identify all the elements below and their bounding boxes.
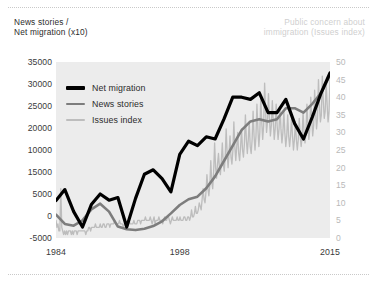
left-axis-tick: 15000	[2, 167, 52, 177]
left-axis-tick: -5000	[2, 233, 52, 243]
legend-item: News stories	[66, 96, 145, 112]
right-axis-tick: 50	[336, 57, 362, 67]
legend-item: Net migration	[66, 80, 145, 96]
right-axis-title: Public concern about immigration (Issues…	[264, 17, 365, 37]
legend-label: Issues index	[92, 115, 142, 125]
right-axis-tick: 5	[336, 215, 362, 225]
right-axis-tick: 25	[336, 145, 362, 155]
left-axis-tick: 20000	[2, 123, 52, 133]
left-axis-tick: 5000	[2, 189, 52, 199]
x-axis-tick: 2015	[320, 247, 340, 257]
left-axis-tick: 0	[2, 211, 52, 221]
right-axis-tick: 15	[336, 180, 362, 190]
right-axis-tick: 35	[336, 110, 362, 120]
right-axis-tick: 0	[336, 233, 362, 243]
legend-label: Net migration	[92, 83, 145, 93]
x-axis-tick: 1984	[46, 247, 66, 257]
right-axis-tick: 40	[336, 92, 362, 102]
right-axis-tick: 45	[336, 75, 362, 85]
left-axis-tick: 10000	[2, 145, 52, 155]
legend-label: News stories	[92, 99, 143, 109]
right-axis-tick: 30	[336, 127, 362, 137]
left-axis-tick: 30000	[2, 79, 52, 89]
legend-swatch	[66, 86, 85, 89]
right-axis-tick: 10	[336, 198, 362, 208]
x-axis-tick: 1998	[170, 247, 190, 257]
top-divider	[8, 7, 369, 8]
legend-item: Issues index	[66, 112, 145, 128]
left-axis-tick: 35000	[2, 57, 52, 67]
left-axis-tick: 25000	[2, 101, 52, 111]
right-axis-tick: 20	[336, 163, 362, 173]
legend-swatch	[66, 103, 85, 106]
legend-swatch	[66, 119, 85, 121]
bottom-divider	[8, 274, 369, 275]
left-axis-title: News stories / Net migration (x10)	[14, 17, 88, 37]
chart-legend: Net migrationNews storiesIssues index	[66, 80, 145, 128]
